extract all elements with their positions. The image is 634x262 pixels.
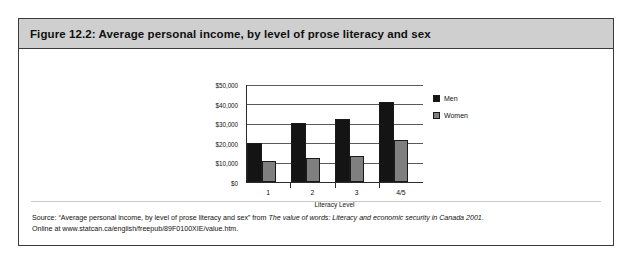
source-note: Source: “Average personal income, by lev… (32, 213, 600, 235)
x-tick-label: 2 (290, 189, 334, 196)
bar-men-level-4-5 (379, 102, 394, 182)
legend-item-men: Men (433, 95, 493, 102)
legend-label-men: Men (444, 95, 458, 102)
legend-label-women: Women (444, 112, 468, 119)
x-tick-label: 1 (246, 189, 290, 196)
source-publication-title: The value of words: Literacy and economi… (268, 214, 481, 222)
y-tick-label: $10,000 (216, 160, 238, 167)
bar-women-level-2 (306, 158, 321, 182)
bars-layer (247, 85, 423, 182)
bar-chart: $0$10,000$20,000$30,000$40,000$50,000 12… (195, 59, 495, 209)
y-tick-label: $50,000 (216, 82, 238, 89)
x-tick (379, 183, 380, 188)
bar-women-level-4-5 (394, 140, 409, 182)
bar-women-level-3 (350, 156, 365, 182)
source-prefix: Source: “Average personal income, by lev… (32, 214, 268, 222)
x-tick (335, 183, 336, 188)
bar-men-level-2 (291, 123, 306, 182)
chart-legend: Men Women (433, 95, 493, 129)
x-axis-title: Literacy Level (246, 201, 423, 208)
page-title: Figure 12.2: Average personal income, by… (30, 28, 431, 40)
y-tick-label: $40,000 (216, 101, 238, 108)
x-tick-label: 4/5 (379, 189, 423, 196)
bar-group (291, 85, 335, 182)
bar-group (335, 85, 379, 182)
y-tick-label: $0 (231, 180, 238, 187)
legend-swatch-men-icon (433, 95, 440, 102)
figure-title-bar: Figure 12.2: Average personal income, by… (19, 19, 613, 49)
bar-women-level-1 (262, 161, 277, 182)
legend-item-women: Women (433, 112, 493, 119)
bar-group (247, 85, 291, 182)
source-url-line: Online at www.statcan.ca/english/freepub… (32, 225, 238, 233)
figure-box: Figure 12.2: Average personal income, by… (18, 18, 614, 246)
x-tick-label: 3 (335, 189, 379, 196)
plot-area (246, 85, 423, 183)
source-suffix: . (482, 214, 484, 222)
bar-men-level-3 (335, 119, 350, 182)
legend-swatch-women-icon (433, 112, 440, 119)
figure-body: $0$10,000$20,000$30,000$40,000$50,000 12… (19, 49, 613, 245)
y-tick-label: $30,000 (216, 121, 238, 128)
x-tick (290, 183, 291, 188)
y-tick-label: $20,000 (216, 140, 238, 147)
source-divider (31, 201, 601, 202)
y-axis-tick-labels: $0$10,000$20,000$30,000$40,000$50,000 (195, 85, 242, 183)
x-axis-tick-labels: 1234/5 (246, 189, 423, 196)
bar-men-level-1 (247, 143, 262, 182)
bar-group (379, 85, 423, 182)
